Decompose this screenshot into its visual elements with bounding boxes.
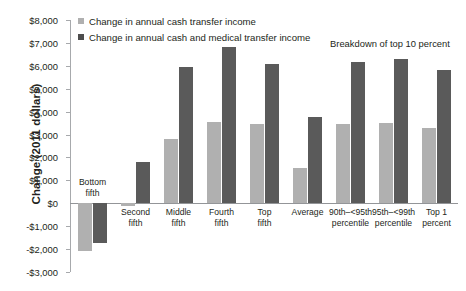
- legend-item: Change in annual cash and medical transf…: [78, 30, 310, 44]
- y-axis-tick-label: -$2,000: [26, 244, 58, 255]
- y-axis-tick-label: -$3,000: [26, 267, 58, 278]
- bar: [336, 124, 350, 203]
- legend-label: Change in annual cash transfer income: [89, 16, 256, 27]
- bar: [437, 70, 451, 203]
- plot-area: [71, 20, 458, 272]
- bar: [121, 203, 135, 205]
- bar: [379, 123, 393, 203]
- legend-item: Change in annual cash transfer income: [78, 14, 310, 28]
- y-axis-tick-mark: [66, 272, 70, 273]
- y-axis-tick-label: $8,000: [29, 15, 58, 26]
- y-axis-tick-label: $1,000: [29, 175, 58, 186]
- bar: [179, 67, 193, 203]
- x-axis-category-label: Bottom fifth: [64, 177, 121, 198]
- bar: [93, 203, 107, 243]
- bar-chart: Change (2011 dollars) $8,000$7,000$6,000…: [0, 0, 466, 291]
- bar: [394, 59, 408, 203]
- legend-label: Change in annual cash and medical transf…: [89, 32, 310, 43]
- bar: [207, 122, 221, 203]
- bar: [250, 124, 264, 203]
- y-axis-tick-label: $6,000: [29, 60, 58, 71]
- bar: [78, 203, 92, 251]
- bar: [308, 117, 322, 203]
- y-axis-tick-label: $0: [48, 198, 58, 209]
- y-axis-tick-label: $7,000: [29, 37, 58, 48]
- legend-swatch-icon: [78, 18, 84, 24]
- legend-swatch-icon: [78, 34, 84, 40]
- y-axis-tick-label: $2,000: [29, 152, 58, 163]
- y-axis-tick-label: $3,000: [29, 129, 58, 140]
- x-axis-category-label: Top 1 percent: [408, 207, 465, 228]
- chart-legend: Change in annual cash transfer incomeCha…: [78, 14, 310, 46]
- bar: [136, 162, 150, 203]
- annotation-breakdown-top-10-percent: Breakdown of top 10 percent: [330, 38, 450, 49]
- bar: [222, 47, 236, 203]
- bar: [351, 62, 365, 203]
- bar: [265, 64, 279, 204]
- y-axis-tick-labels: $8,000$7,000$6,000$5,000$4,000$3,000$2,0…: [0, 0, 66, 291]
- bar: [293, 168, 307, 204]
- bar: [422, 128, 436, 204]
- y-axis-tick-label: -$1,000: [26, 221, 58, 232]
- y-axis-tick-label: $5,000: [29, 83, 58, 94]
- bar: [164, 139, 178, 203]
- y-axis-tick-label: $4,000: [29, 106, 58, 117]
